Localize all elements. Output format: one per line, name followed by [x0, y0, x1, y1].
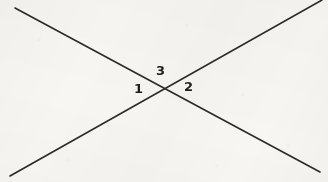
line-drawing — [0, 0, 328, 182]
figure-canvas: 1 3 2 — [0, 0, 328, 182]
angle-label-2: 2 — [184, 80, 193, 93]
line-ascending — [10, 0, 322, 176]
angle-label-3: 3 — [156, 64, 165, 77]
angle-label-1: 1 — [134, 82, 143, 95]
